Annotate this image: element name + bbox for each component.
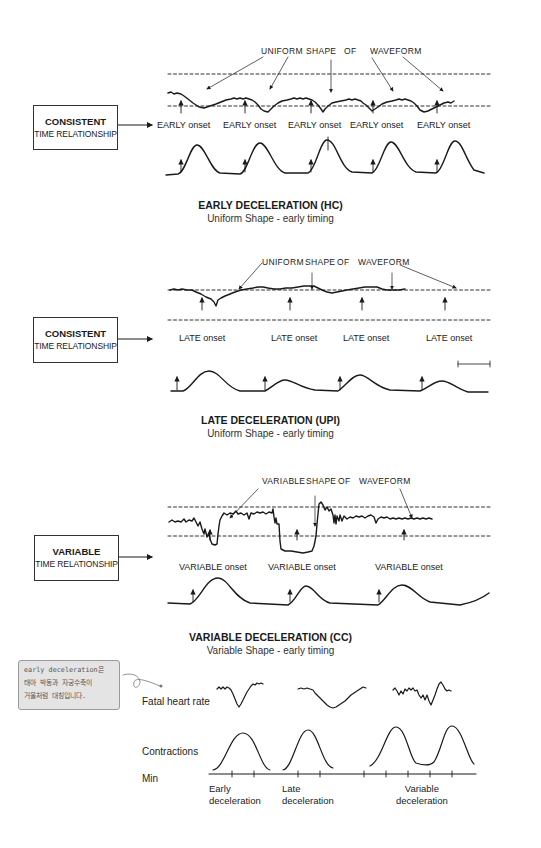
onset-label: EARLY onset <box>223 120 276 130</box>
annotation-word: SHAPE <box>306 476 336 486</box>
annotation-word: VARIABLE <box>262 476 305 486</box>
box-subtitle: TIME RELATIONSHIP <box>35 558 118 570</box>
annotation-word: SHAPE <box>305 257 335 267</box>
annotation-word: WAVEFORM <box>359 476 411 486</box>
section-title-block: VARIABLE DECELERATION (CC) Variable Shap… <box>0 630 541 657</box>
contractions-row-label: Contractions <box>142 746 198 757</box>
axis-label-line: Late <box>282 783 334 795</box>
box-title: CONSISTENT <box>34 116 117 128</box>
annotation-word: OF <box>338 476 350 486</box>
section-title: EARLY DECELERATION (HC) <box>0 198 541 212</box>
axis-label-line: Variable <box>396 783 448 795</box>
section-title-block: LATE DECELERATION (UPI) Uniform Shape - … <box>0 413 541 440</box>
onset-label: VARIABLE onset <box>268 562 336 572</box>
onset-label: EARLY onset <box>288 120 341 130</box>
axis-label-early: Early deceleration <box>209 783 261 807</box>
box-subtitle: TIME RELATIONSHIP <box>34 128 117 140</box>
section-subtitle: Variable Shape - early timing <box>0 644 541 657</box>
onset-label: LATE onset <box>179 333 225 343</box>
axis-label-line: deceleration <box>282 795 334 807</box>
time-relationship-box: CONSISTENT TIME RELATIONSHIP <box>33 317 118 363</box>
axis-label-line: deceleration <box>209 795 261 807</box>
axis-label-variable: Variable deceleration <box>396 783 448 807</box>
annotation-word: WAVEFORM <box>358 257 410 267</box>
box-title: CONSISTENT <box>34 328 117 340</box>
section-title: LATE DECELERATION (UPI) <box>0 413 541 427</box>
summary-graphics <box>123 674 476 777</box>
note-line: 거울처럼 대칭입니다. <box>24 690 114 703</box>
axis-label-line: deceleration <box>396 795 448 807</box>
onset-label: LATE onset <box>271 333 317 343</box>
axis-label-line: Early <box>209 783 261 795</box>
note-line: 태아 박동과 자궁수축이 <box>24 677 114 690</box>
annotation-word: WAVEFORM <box>370 46 422 56</box>
axis-label-late: Late deceleration <box>282 783 334 807</box>
annotation-word: OF <box>337 257 349 267</box>
box-subtitle: TIME RELATIONSHIP <box>34 340 117 352</box>
time-relationship-box: CONSISTENT TIME RELATIONSHIP <box>33 105 118 150</box>
time-relationship-box: VARIABLE TIME RELATIONSHIP <box>34 535 119 581</box>
onset-label: VARIABLE onset <box>375 562 443 572</box>
box-title: VARIABLE <box>35 546 118 558</box>
onset-label: LATE onset <box>426 333 472 343</box>
annotation-word: OF <box>344 46 356 56</box>
early-section-graphics <box>118 57 490 175</box>
section-subtitle: Uniform Shape - early timing <box>0 212 541 225</box>
section-title-block: EARLY DECELERATION (HC) Uniform Shape - … <box>0 198 541 225</box>
onset-label: EARLY onset <box>417 120 470 130</box>
onset-label: EARLY onset <box>157 120 210 130</box>
section-title: VARIABLE DECELERATION (CC) <box>0 630 541 644</box>
late-section-graphics <box>118 263 490 392</box>
variable-section-graphics <box>118 489 490 605</box>
annotation-word: UNIFORM <box>262 257 304 267</box>
section-subtitle: Uniform Shape - early timing <box>0 427 541 440</box>
onset-label: EARLY onset <box>350 120 403 130</box>
annotation-word: SHAPE <box>306 46 336 56</box>
onset-label: LATE onset <box>343 333 389 343</box>
handwritten-note: early deceleration은 태아 박동과 자궁수축이 거울처럼 대칭… <box>18 660 120 710</box>
annotation-word: UNIFORM <box>261 46 303 56</box>
fhr-row-label: Fatal heart rate <box>142 696 210 707</box>
min-row-label: Min <box>142 773 158 784</box>
note-line: early deceleration은 <box>24 664 114 677</box>
onset-label: VARIABLE onset <box>179 562 247 572</box>
